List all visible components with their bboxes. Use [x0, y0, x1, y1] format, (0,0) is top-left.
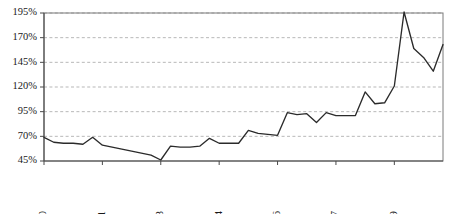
y-axis-ticks: 195%170%145%120%95%70%45% [13, 6, 45, 165]
x-tick-label: Mar-03 [154, 211, 165, 214]
gridlines-group [44, 13, 443, 136]
x-axis-ticks: Mar-00Sep-01Mar-03Sep-04Mar-06Sep-07Mar-… [37, 161, 398, 214]
chart-canvas: 195%170%145%120%95%70%45%Mar-00Sep-01Mar… [0, 0, 455, 214]
y-tick-label: 195% [13, 6, 38, 17]
y-tick-label: 145% [13, 56, 38, 67]
x-tick-label: Sep-07 [329, 211, 340, 214]
y-tick-label: 45% [18, 154, 38, 165]
y-tick-label: 170% [13, 31, 38, 42]
x-tick-label: Sep-01 [96, 211, 107, 214]
y-tick-label: 120% [13, 80, 38, 91]
line-chart: 195%170%145%120%95%70%45%Mar-00Sep-01Mar… [0, 0, 455, 214]
series-line-index [44, 12, 443, 160]
x-tick-label: Mar-09 [388, 211, 399, 214]
x-tick-label: Sep-04 [213, 210, 224, 214]
y-tick-label: 70% [18, 130, 38, 141]
y-tick-label: 95% [18, 105, 38, 116]
x-tick-label: Mar-06 [271, 211, 282, 214]
x-tick-label: Mar-00 [37, 211, 48, 214]
